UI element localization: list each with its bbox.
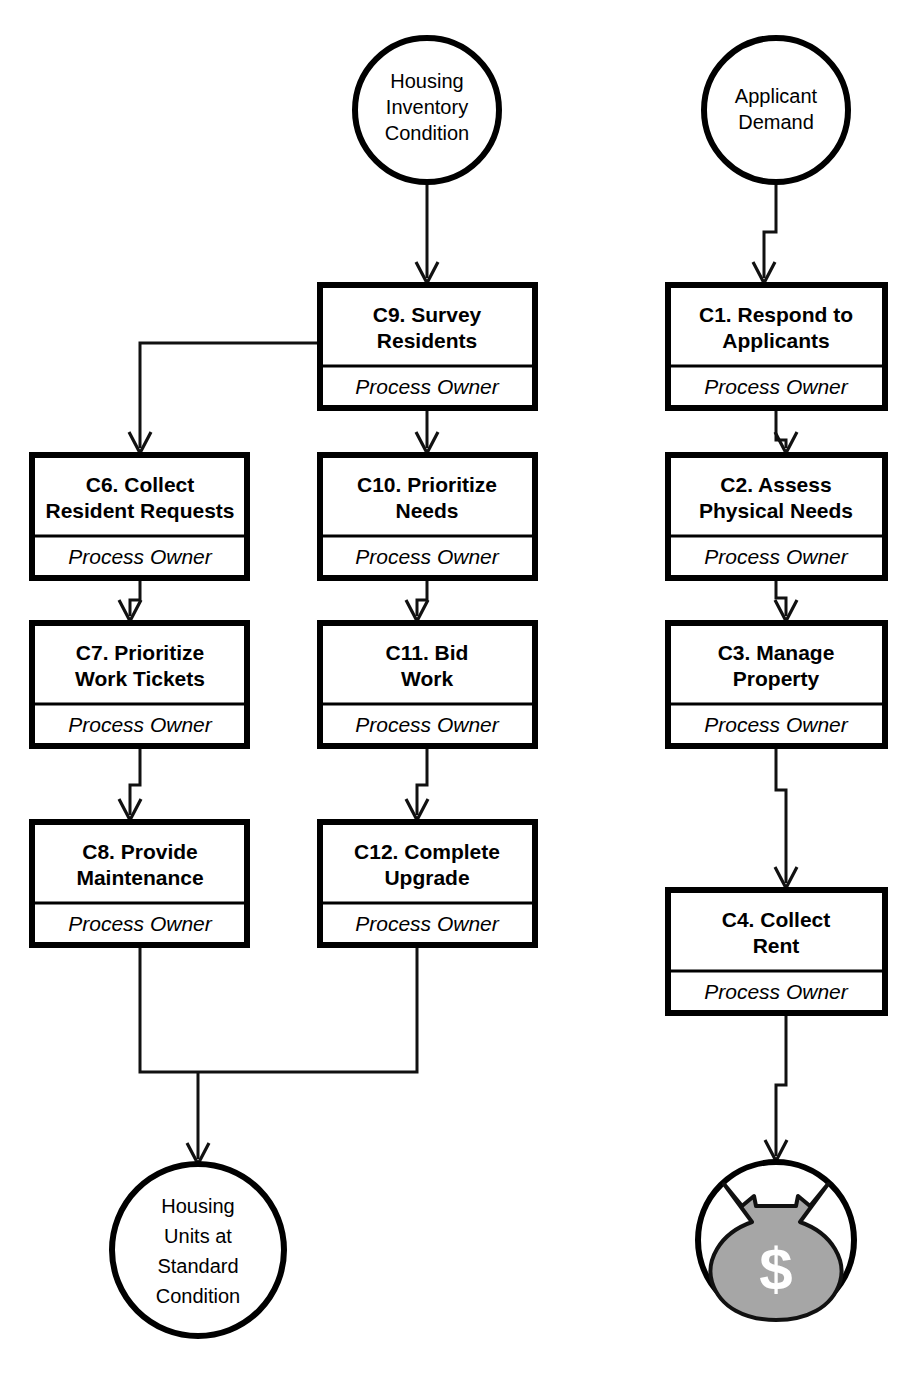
conn-ad-c1 (753, 182, 776, 283)
terminator-housing-units-standard-condition[interactable]: Housing Units at Standard Condition (112, 1164, 284, 1336)
terminator-revenue-money-bag[interactable]: $ (698, 1162, 854, 1320)
process-title: C8. Provide (82, 840, 198, 863)
process-title: Physical Needs (699, 499, 853, 522)
process-owner: Process Owner (704, 375, 849, 398)
conn-c4-money (765, 1013, 787, 1161)
process-owner: Process Owner (355, 713, 500, 736)
terminator-label: Demand (738, 111, 814, 133)
process-owner: Process Owner (68, 912, 213, 935)
process-owner: Process Owner (704, 980, 849, 1003)
process-title: C9. Survey (373, 303, 482, 326)
process-box-c3[interactable]: C3. Manage Property Process Owner (668, 623, 885, 746)
process-title: Rent (753, 934, 800, 957)
process-owner: Process Owner (355, 912, 500, 935)
process-title: C4. Collect (722, 908, 831, 931)
process-owner: Process Owner (704, 545, 849, 568)
process-title: C12. Complete (354, 840, 500, 863)
conn-c9-c10 (416, 408, 438, 453)
process-box-c2[interactable]: C2. Assess Physical Needs Process Owner (668, 455, 885, 578)
process-title: C3. Manage (718, 641, 835, 664)
process-owner: Process Owner (68, 545, 213, 568)
conn-hic-c9 (416, 182, 438, 283)
process-box-c7[interactable]: C7. Prioritize Work Tickets Process Owne… (32, 623, 247, 746)
process-box-c11[interactable]: C11. Bid Work Process Owner (320, 623, 535, 746)
dollar-symbol: $ (759, 1236, 792, 1303)
process-title: Residents (377, 329, 477, 352)
conn-c9-c6 (129, 343, 320, 453)
process-owner: Process Owner (355, 375, 500, 398)
terminator-label: Inventory (386, 96, 468, 118)
conn-c11-c12 (406, 746, 428, 820)
process-title: Property (733, 667, 820, 690)
process-box-c4[interactable]: C4. Collect Rent Process Owner (668, 890, 885, 1013)
conn-c3-c4 (775, 746, 797, 888)
terminator-label: Condition (385, 122, 470, 144)
terminator-label-condition: Condition (156, 1285, 241, 1307)
process-box-c8[interactable]: C8. Provide Maintenance Process Owner (32, 822, 247, 945)
process-box-c10[interactable]: C10. Prioritize Needs Process Owner (320, 455, 535, 578)
process-title: C1. Respond to (699, 303, 853, 326)
terminator-label: Housing (390, 70, 463, 92)
conn-c7-c8 (119, 746, 141, 820)
process-title: Work Tickets (75, 667, 205, 690)
process-title: C7. Prioritize (76, 641, 204, 664)
process-owner: Process Owner (355, 545, 500, 568)
conn-c10-c11 (406, 578, 428, 621)
flowchart-canvas: Housing Inventory Condition Applicant De… (0, 0, 918, 1375)
conn-c8-c12-merge-output (140, 945, 417, 1164)
process-box-c9[interactable]: C9. Survey Residents Process Owner (320, 285, 535, 408)
process-title: Maintenance (76, 866, 203, 889)
process-owner: Process Owner (68, 713, 213, 736)
process-title: Needs (395, 499, 458, 522)
process-box-c12[interactable]: C12. Complete Upgrade Process Owner (320, 822, 535, 945)
process-box-c1[interactable]: C1. Respond to Applicants Process Owner (668, 285, 885, 408)
process-title: Applicants (722, 329, 829, 352)
terminator-circle-shape (704, 38, 848, 182)
terminator-housing-inventory-condition[interactable]: Housing Inventory Condition (355, 38, 499, 182)
process-title: Upgrade (384, 866, 469, 889)
process-title: Resident Requests (45, 499, 234, 522)
terminator-label: Units at (164, 1225, 232, 1247)
process-title: C6. Collect (86, 473, 195, 496)
process-owner: Process Owner (704, 713, 849, 736)
process-title: C2. Assess (720, 473, 831, 496)
process-title: C10. Prioritize (357, 473, 497, 496)
conn-c2-c3 (775, 578, 797, 621)
terminator-label: Applicant (735, 85, 818, 107)
conn-c6-c7 (119, 578, 141, 621)
terminator-circle-shape (112, 1164, 284, 1336)
process-flow-diagram: Housing Inventory Condition Applicant De… (0, 0, 918, 1375)
conn-c1-c2 (775, 408, 797, 453)
terminator-applicant-demand[interactable]: Applicant Demand (704, 38, 848, 182)
process-box-layer: C9. Survey Residents Process Owner C1. R… (32, 285, 885, 1013)
process-box-c6[interactable]: C6. Collect Resident Requests Process Ow… (32, 455, 247, 578)
terminator-label: Housing (161, 1195, 234, 1217)
process-title: Work (401, 667, 453, 690)
process-title: C11. Bid (386, 641, 469, 664)
terminator-label: Standard (157, 1255, 238, 1277)
